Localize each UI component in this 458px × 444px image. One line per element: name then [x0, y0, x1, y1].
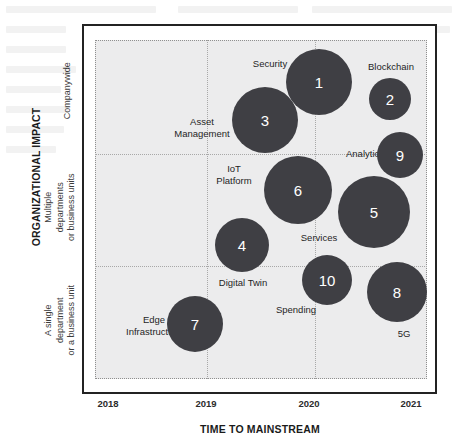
bubble-rank-8: 8 [393, 284, 401, 301]
gridline-top-edge [95, 40, 427, 41]
bubble-rank-3: 3 [261, 112, 269, 129]
bubble-rank-10: 10 [319, 272, 336, 289]
bubble-rank-6: 6 [294, 182, 302, 199]
point-label-digital-twin: Digital Twin [219, 277, 267, 289]
x-tick-2018: 2018 [78, 398, 138, 409]
bubble-point-5[interactable]: 5 [338, 176, 410, 248]
plot-frame: Security Blockchain Asset Management IoT… [82, 24, 437, 394]
point-label-services: Services [301, 232, 337, 244]
point-label-blockchain: Blockchain [368, 61, 414, 73]
bubble-point-2[interactable]: 2 [369, 78, 411, 120]
gridline-left-edge [95, 40, 96, 379]
y-axis-title: ORGANIZATIONAL IMPACT [30, 92, 42, 262]
x-tick-2020: 2020 [279, 398, 339, 409]
bubble-point-1[interactable]: 1 [286, 49, 352, 115]
bubble-rank-2: 2 [386, 91, 394, 108]
point-label-security: Security [253, 58, 287, 70]
bubble-rank-1: 1 [315, 74, 323, 91]
x-tick-2021: 2021 [381, 398, 441, 409]
bubble-rank-7: 7 [191, 316, 199, 333]
bubble-point-10[interactable]: 10 [302, 255, 352, 305]
y-category-single-department: A single department or a business unit [43, 262, 78, 378]
bubble-point-8[interactable]: 8 [367, 262, 427, 322]
bubble-rank-9: 9 [396, 147, 404, 164]
gridline-bottom-edge [95, 378, 427, 379]
bubble-point-9[interactable]: 9 [377, 132, 423, 178]
plot-area: Security Blockchain Asset Management IoT… [95, 40, 427, 379]
bubble-rank-4: 4 [238, 237, 246, 254]
bubble-point-4[interactable]: 4 [215, 218, 269, 272]
gridline-multiple [95, 266, 427, 267]
bubble-point-3[interactable]: 3 [232, 87, 298, 153]
gridline-right-edge [426, 40, 427, 379]
point-label-asset-management: Asset Management [174, 116, 229, 139]
x-tick-2019: 2019 [176, 398, 236, 409]
x-axis-title: TIME TO MAINSTREAM [82, 423, 438, 435]
bubble-point-7[interactable]: 7 [167, 296, 223, 352]
y-category-multiple-departments: Multiple departments or business units [43, 152, 78, 262]
y-category-companywide: Companywide [62, 36, 74, 146]
point-label-5g: 5G [398, 328, 411, 340]
bubble-rank-5: 5 [370, 204, 378, 221]
bubble-point-6[interactable]: 6 [264, 156, 332, 224]
point-label-spending: Spending [276, 304, 316, 316]
point-label-iot-platform: IoT Platform [216, 163, 251, 186]
bubble-chart: ORGANIZATIONAL IMPACT Companywide Multip… [0, 0, 458, 444]
